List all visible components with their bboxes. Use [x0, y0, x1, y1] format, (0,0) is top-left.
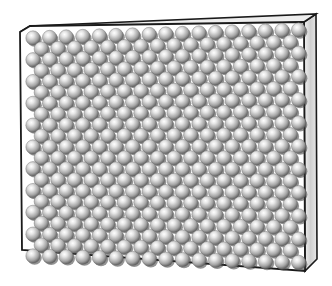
sphere — [275, 255, 289, 269]
sphere — [159, 252, 173, 266]
sphere — [258, 254, 272, 268]
sphere — [291, 93, 305, 107]
sphere — [125, 251, 139, 265]
sphere — [42, 249, 56, 263]
sphere — [291, 23, 305, 37]
sphere — [26, 249, 40, 263]
sphere — [242, 254, 256, 268]
sphere — [225, 254, 239, 268]
sphere — [92, 250, 106, 264]
illustration — [0, 0, 332, 286]
sphere — [142, 252, 156, 266]
sphere — [291, 116, 305, 130]
sphere-panel-drawing — [0, 0, 332, 286]
sphere-grid — [26, 23, 308, 271]
sphere — [291, 46, 305, 60]
sphere — [208, 253, 222, 267]
sphere — [291, 255, 305, 269]
sphere — [76, 250, 90, 264]
sphere — [192, 253, 206, 267]
sphere — [291, 69, 305, 83]
sphere — [175, 252, 189, 266]
sphere — [109, 251, 123, 265]
sphere — [59, 250, 73, 264]
